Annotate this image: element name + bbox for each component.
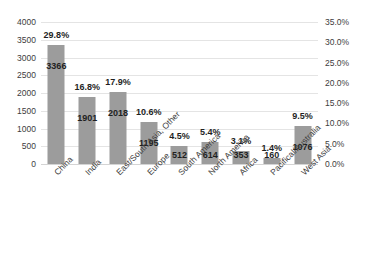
bar-percent-label: 9.5% [292, 111, 313, 121]
bar-group[interactable]: 336629.8% [41, 22, 72, 164]
bar[interactable] [79, 97, 96, 164]
cropped-title-text [8, 0, 10, 2]
y-tick-label-left: 0 [0, 159, 36, 169]
y-tick-label-right: 30.0% [325, 37, 375, 47]
bar-value-label: 512 [172, 150, 187, 160]
y-tick-label-left: 2000 [0, 88, 36, 98]
y-tick-label-left: 500 [0, 141, 36, 151]
y-tick-label-left: 1000 [0, 124, 36, 134]
bar-group[interactable]: 1601.4% [256, 22, 287, 164]
bar-value-label: 2018 [108, 108, 128, 118]
bar-value-label: 3366 [46, 61, 66, 71]
y-tick-label-right: 25.0% [325, 58, 375, 68]
bar-group[interactable]: 190116.8% [72, 22, 103, 164]
bar-percent-label: 4.5% [169, 131, 190, 141]
y-tick-label-right: 10.0% [325, 118, 375, 128]
y-tick-label-left: 3500 [0, 35, 36, 45]
bar-percent-label: 16.8% [74, 82, 100, 92]
y-tick-label-right: 5.0% [325, 139, 375, 149]
bar-group[interactable]: 5124.5% [164, 22, 195, 164]
y-tick-label-right: 20.0% [325, 78, 375, 88]
bar-value-label: 1901 [77, 113, 97, 123]
bar-percent-label: 10.6% [136, 107, 162, 117]
y-tick-label-left: 3000 [0, 53, 36, 63]
y-tick-label-right: 15.0% [325, 98, 375, 108]
plot-area: 336629.8%190116.8%201817.9%119510.6%5124… [41, 22, 318, 164]
bar-percent-label: 17.9% [105, 77, 131, 87]
y-tick-label-left: 4000 [0, 17, 36, 27]
y-tick-label-left: 1500 [0, 106, 36, 116]
y-tick-label-right: 0.0% [325, 159, 375, 169]
y-tick-label-left: 2500 [0, 70, 36, 80]
bar-percent-label: 1.4% [262, 143, 283, 153]
bar[interactable] [109, 92, 126, 164]
bar-percent-label: 29.8% [44, 30, 70, 40]
y-tick-label-right: 35.0% [325, 17, 375, 27]
bar-group[interactable]: 201817.9% [103, 22, 134, 164]
bar-chart: 05001000150020002500300035004000 0.0%5.0… [0, 0, 375, 258]
